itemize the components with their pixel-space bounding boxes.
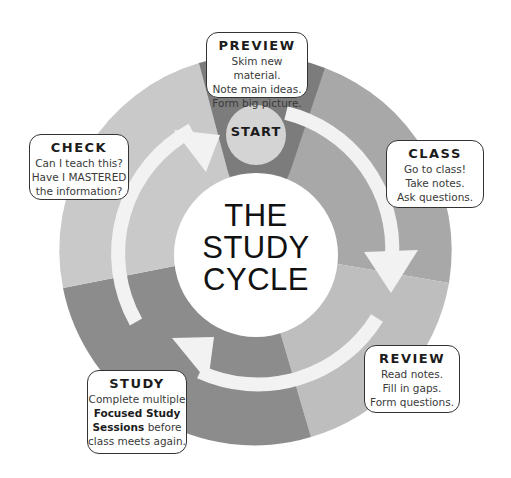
class-title: CLASS xyxy=(387,146,483,162)
study-line: Complete multiple xyxy=(88,392,186,406)
review-box: REVIEW Read notes. Fill in gaps. Form qu… xyxy=(364,345,460,413)
preview-line: Note main ideas. xyxy=(207,82,307,96)
preview-title: PREVIEW xyxy=(207,38,307,54)
review-line: Read notes. xyxy=(365,367,459,381)
title-line-2: STUDY xyxy=(175,232,337,264)
study-before: before xyxy=(144,421,181,433)
check-box: CHECK Can I teach this? Have I MASTERED … xyxy=(29,134,129,200)
check-line: Have I MASTERED xyxy=(30,170,128,184)
preview-box: PREVIEW Skim new material. Note main ide… xyxy=(206,32,308,98)
study-title: STUDY xyxy=(88,376,186,392)
check-line: Can I teach this? xyxy=(30,156,128,170)
study-line: Sessions before xyxy=(88,420,186,434)
review-line: Form questions. xyxy=(365,395,459,409)
study-line: class meets again. xyxy=(88,434,186,448)
review-line: Fill in gaps. xyxy=(365,381,459,395)
study-box: STUDY Complete multiple Focused Study Se… xyxy=(87,370,187,454)
title-line-1: THE xyxy=(175,200,337,232)
class-box: CLASS Go to class! Take notes. Ask quest… xyxy=(386,140,484,208)
class-line: Take notes. xyxy=(387,176,483,190)
preview-line: Form big picture. xyxy=(207,96,307,110)
diagram-title: THE STUDY CYCLE xyxy=(175,200,337,296)
class-line: Ask questions. xyxy=(387,190,483,204)
study-line: Focused Study xyxy=(88,406,186,420)
check-line: the information? xyxy=(30,184,128,198)
focused-study-bold: Focused Study xyxy=(94,407,181,419)
check-title: CHECK xyxy=(30,140,128,156)
start-label: START xyxy=(227,124,285,146)
title-line-3: CYCLE xyxy=(175,264,337,296)
review-title: REVIEW xyxy=(365,351,459,367)
preview-line: Skim new material. xyxy=(207,54,307,82)
class-line: Go to class! xyxy=(387,162,483,176)
sessions-bold: Sessions xyxy=(93,421,145,433)
